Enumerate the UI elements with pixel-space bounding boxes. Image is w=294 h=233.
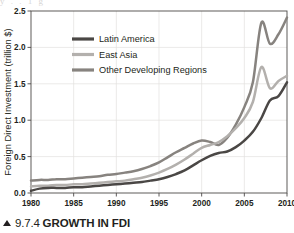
x-axis-tick-labels: 1980198519901995200020052010	[22, 199, 294, 208]
y-tick-label: 0.5	[14, 153, 26, 162]
triangle-up-icon	[3, 220, 11, 226]
chart-legend: Latin AmericaEast AsiaOther Developing R…	[72, 34, 207, 75]
x-tick-label: 1990	[107, 199, 126, 208]
figure-container: y . . 1 g 0.00.51.01.52.02.5 19801985199…	[0, 0, 294, 233]
figure-title: GROWTH IN FDI	[43, 217, 131, 229]
legend-label-other-developing-regions: Other Developing Regions	[99, 65, 207, 75]
legend-label-latin-america: Latin America	[99, 34, 156, 44]
y-tick-label: 1.5	[14, 80, 26, 89]
chart-canvas: 0.00.51.01.52.02.5 198019851990199520002…	[0, 6, 294, 211]
grid-lines	[31, 11, 287, 193]
y-tick-label: 2.5	[14, 7, 26, 16]
y-tick-label: 2.0	[14, 43, 26, 52]
x-tick-label: 2010	[278, 199, 294, 208]
axis-tick-marks	[28, 11, 288, 197]
x-tick-label: 2000	[193, 199, 212, 208]
y-axis-title: Foreign Direct Investment (trillion $)	[3, 28, 13, 175]
x-tick-label: 1980	[22, 199, 41, 208]
y-tick-label: 1.0	[14, 116, 26, 125]
x-tick-label: 1995	[150, 199, 169, 208]
figure-caption: 9.7.4 GROWTH IN FDI	[3, 214, 293, 231]
x-tick-label: 2005	[235, 199, 254, 208]
y-tick-label: 0.0	[14, 189, 26, 198]
legend-label-east-asia: East Asia	[99, 50, 138, 60]
x-axis-title: Year	[150, 209, 169, 211]
x-tick-label: 1985	[65, 199, 84, 208]
y-axis-tick-labels: 0.00.51.01.52.02.5	[14, 7, 26, 198]
figure-number: 9.7.4	[15, 217, 40, 229]
fdi-line-chart: 0.00.51.01.52.02.5 198019851990199520002…	[0, 6, 294, 211]
